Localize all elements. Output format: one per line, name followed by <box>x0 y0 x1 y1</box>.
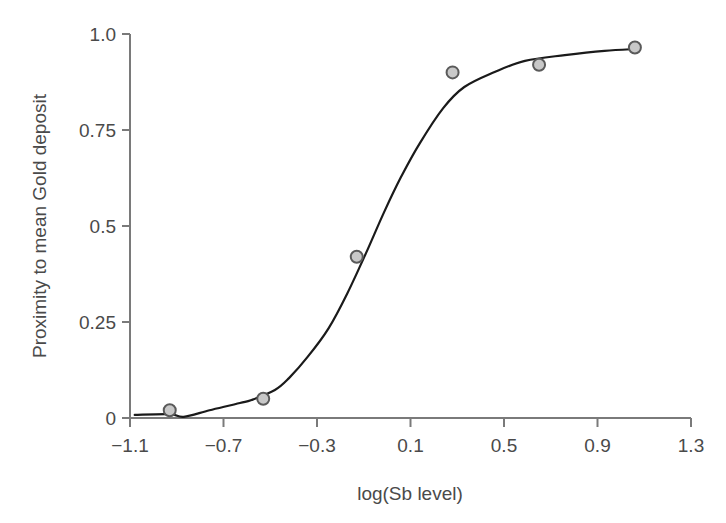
x-tick-label: −1.1 <box>111 435 149 456</box>
y-tick-label: 0 <box>105 408 116 429</box>
data-point-marker <box>629 41 641 53</box>
y-tick-label: 0.25 <box>79 312 116 333</box>
data-point-marker <box>257 393 269 405</box>
x-tick-label: 0.1 <box>397 435 423 456</box>
x-tick-label: 1.3 <box>678 435 704 456</box>
chart: 00.250.50.751.0 −1.1−0.7−0.30.10.50.91.3… <box>0 0 726 523</box>
data-point-marker <box>533 59 545 71</box>
x-axis-title: log(Sb level) <box>357 483 463 504</box>
y-tick-label: 0.75 <box>79 120 116 141</box>
x-tick-label: −0.7 <box>205 435 243 456</box>
y-tick-label: 0.5 <box>90 216 116 237</box>
y-axis: 00.250.50.751.0 <box>79 24 130 429</box>
data-point-marker <box>351 251 363 263</box>
data-point-marker <box>447 66 459 78</box>
x-tick-label: −0.3 <box>298 435 336 456</box>
x-axis: −1.1−0.7−0.30.10.50.91.3 <box>111 418 704 456</box>
data-point-marker <box>164 404 176 416</box>
data-points <box>164 41 641 416</box>
x-tick-label: 0.9 <box>584 435 610 456</box>
y-tick-label: 1.0 <box>90 24 116 45</box>
plot-canvas: 00.250.50.751.0 −1.1−0.7−0.30.10.50.91.3… <box>0 0 726 523</box>
x-tick-label: 0.5 <box>491 435 517 456</box>
fitted-curve <box>135 49 635 417</box>
y-axis-title: Proximity to mean Gold deposit <box>29 93 50 358</box>
